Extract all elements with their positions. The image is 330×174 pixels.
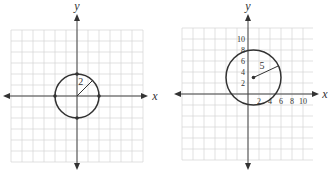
y-axis-label: y <box>244 0 251 13</box>
y-tick-label: 6 <box>241 57 245 66</box>
x-axis-right-arrow-icon <box>312 91 319 97</box>
x-tick-label: 10 <box>299 97 307 106</box>
y-axis-label: y <box>73 0 80 13</box>
marked-point <box>252 76 256 80</box>
y-axis-up-arrow-icon <box>74 14 80 21</box>
x-axis-label: x <box>321 87 328 101</box>
y-tick-label: 2 <box>241 79 245 88</box>
graph-panel-2: xy2468102468105 <box>174 0 328 170</box>
circle-graphs: xy2xy2468102468105 <box>0 0 330 174</box>
y-tick-label: 8 <box>241 46 245 55</box>
x-axis-right-arrow-icon <box>141 93 148 99</box>
marked-point <box>53 94 57 98</box>
marked-point <box>75 116 79 120</box>
x-axis-left-arrow-icon <box>3 93 10 99</box>
y-axis-down-arrow-icon <box>74 163 80 170</box>
graph-panel-1: xy2 <box>3 0 158 170</box>
x-tick-label: 6 <box>279 97 283 106</box>
marked-point <box>97 94 101 98</box>
x-tick-label: 8 <box>290 97 294 106</box>
radius-label: 5 <box>259 60 264 71</box>
y-axis-down-arrow-icon <box>245 163 251 170</box>
y-axis-up-arrow-icon <box>245 14 251 21</box>
x-axis-left-arrow-icon <box>174 91 181 97</box>
y-tick-label: 10 <box>237 35 245 44</box>
y-tick-label: 4 <box>241 68 245 77</box>
radius-label: 2 <box>78 76 83 87</box>
marked-point <box>75 72 79 76</box>
x-axis-label: x <box>151 89 158 103</box>
